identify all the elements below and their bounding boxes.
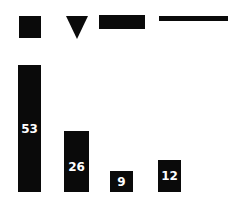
bar-square: 53 [18, 65, 41, 192]
bar-value-label: 9 [117, 175, 125, 189]
triangle-down-icon [66, 16, 88, 39]
line-icon [159, 16, 228, 21]
bar-rectangle: 9 [110, 171, 133, 192]
bar-line: 12 [158, 160, 181, 192]
bar-value-label: 53 [21, 122, 38, 136]
bar-value-label: 26 [68, 160, 85, 174]
square-icon [19, 16, 41, 38]
bar-value-label: 12 [161, 169, 178, 183]
rectangle-icon [99, 15, 145, 29]
bar-triangle: 26 [64, 131, 89, 192]
